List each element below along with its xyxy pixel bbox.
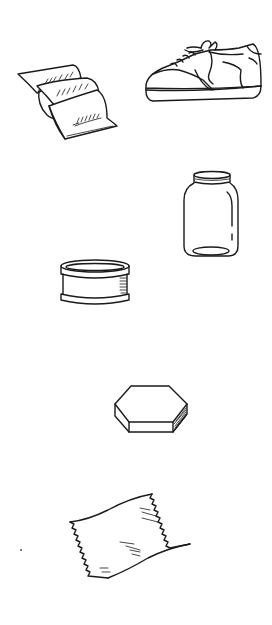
towel-drawing: folded towel <box>15 60 120 140</box>
towel-icon <box>15 60 120 140</box>
stray-dot <box>20 549 22 551</box>
tin-drawing: short round tin <box>58 258 132 306</box>
wrapper-icon <box>68 492 192 584</box>
tin-icon <box>58 258 132 306</box>
jar-drawing: glass jar <box>182 170 240 258</box>
jar-icon <box>182 170 240 258</box>
sneaker-drawing: sneaker shoe <box>143 40 265 106</box>
wrapper-drawing: candy wrapper packet <box>68 492 192 584</box>
hexagon-drawing: hexagonal block <box>113 382 189 434</box>
sneaker-icon <box>143 40 265 106</box>
hexagon-icon <box>113 382 189 434</box>
